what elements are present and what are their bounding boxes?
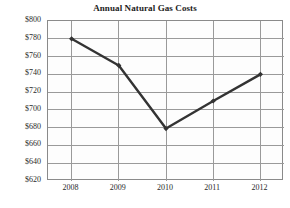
chart-container: Annual Natural Gas Costs $800$780$760$74… [0, 0, 290, 208]
plot-area [47, 20, 283, 180]
x-axis-tick-label: 2009 [110, 184, 126, 192]
y-axis-tick-label: $720 [25, 87, 41, 95]
x-axis-tick-label: 2011 [204, 184, 220, 192]
x-axis-tick-label: 2010 [157, 184, 173, 192]
chart-title: Annual Natural Gas Costs [0, 3, 290, 13]
y-axis-tick-labels: $800$780$760$740$720$700$680$660$640$620 [0, 20, 44, 180]
x-axis-tick-labels: 20082009201020112012 [47, 184, 283, 198]
data-series-line [48, 21, 284, 181]
y-axis-tick-label: $700 [25, 105, 41, 113]
y-axis-tick-label: $680 [25, 123, 41, 131]
y-axis-tick-label: $620 [25, 176, 41, 184]
y-axis-tick-label: $780 [25, 34, 41, 42]
y-axis-tick-label: $760 [25, 52, 41, 60]
y-axis-tick-label: $640 [25, 158, 41, 166]
y-axis-tick-label: $800 [25, 16, 41, 24]
y-axis-tick-label: $740 [25, 69, 41, 77]
x-axis-tick-label: 2012 [251, 184, 267, 192]
x-axis-tick-label: 2008 [63, 184, 79, 192]
y-axis-tick-label: $660 [25, 140, 41, 148]
